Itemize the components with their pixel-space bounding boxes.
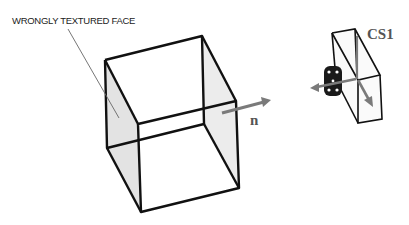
cube-diagram: WRONGLY TEXTURED FACE n CS1	[0, 0, 409, 225]
right-side-face	[202, 36, 239, 188]
coordinate-system-label: CS1	[367, 26, 394, 42]
annotation-label: WRONGLY TEXTURED FACE	[12, 15, 135, 26]
normal-label: n	[250, 112, 259, 128]
texture-object-icon	[324, 66, 342, 96]
wrongly-textured-face	[105, 60, 141, 212]
